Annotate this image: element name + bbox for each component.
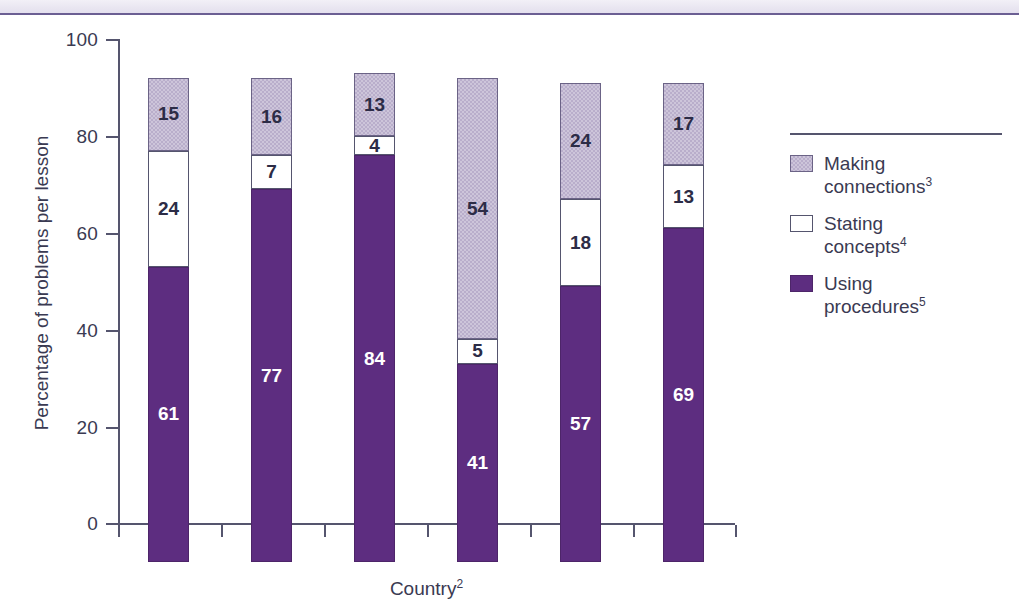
x-axis-title: Country2 [118,578,735,600]
x-tick-3 [427,525,429,537]
segment-value-label: 13 [364,94,385,116]
segment-value-label: 4 [369,135,380,157]
legend-sup-using: 5 [919,295,926,309]
making-connections-swatch-icon [790,155,813,172]
segment-using-procedures: 77 [251,189,292,562]
x-tick-4 [530,525,532,537]
segment-value-label: 54 [467,198,488,220]
y-axis-title: Percentage of problems per lesson [31,73,53,493]
x-tick-5 [633,525,635,537]
segment-value-label: 17 [673,113,694,135]
y-tick-20 [106,427,118,429]
y-axis-line [118,39,120,525]
x-tick-2 [324,525,326,537]
segment-stating-concepts: 24 [148,151,189,267]
legend-line1-stating: Stating [824,213,883,234]
segment-using-procedures: 57 [560,286,601,562]
segment-value-label: 15 [158,103,179,125]
x-axis-title-sup: 2 [456,577,463,591]
legend-line2-stating: concepts [824,236,900,257]
x-tick-1 [221,525,223,537]
bar-us[interactable]: 691317 [663,39,704,523]
legend-item-stating-concepts[interactable]: Statingconcepts4 [790,212,907,258]
using-procedures-swatch-icon [790,275,813,292]
legend-label-stating-concepts: Statingconcepts4 [824,212,907,258]
y-tick-60 [106,233,118,235]
x-axis-title-text: Country [390,578,457,599]
legend-line1-making: Making [824,153,885,174]
segment-using-procedures: 69 [663,228,704,562]
stacked-bar-chart: 100 80 60 40 20 0 Percentage of problems… [0,0,1019,615]
y-tick-80 [106,136,118,138]
legend-line2-using: procedures [824,296,919,317]
segment-using-procedures: 61 [148,267,189,562]
y-tick-label-0: 0 [38,513,98,535]
stating-concepts-swatch-icon [790,215,813,232]
segment-making-connections: 16 [251,78,292,155]
segment-value-label: 84 [364,348,385,370]
segment-value-label: 18 [570,232,591,254]
segment-value-label: 69 [673,384,694,406]
segment-value-label: 13 [673,186,694,208]
segment-making-connections: 17 [663,83,704,165]
y-tick-label-100: 100 [38,29,98,51]
segment-value-label: 16 [261,106,282,128]
y-tick-40 [106,330,118,332]
legend-label-making-connections: Makingconnections3 [824,152,932,198]
segment-stating-concepts: 5 [457,339,498,363]
y-tick-0 [106,523,118,525]
segment-value-label: 41 [467,452,488,474]
bar-hk[interactable]: 84413 [354,39,395,523]
bar-jp[interactable]: 41554 [457,39,498,523]
segment-making-connections: 54 [457,78,498,339]
y-tick-100 [106,39,118,41]
segment-value-label: 24 [158,198,179,220]
segment-stating-concepts: 18 [560,199,601,286]
segment-stating-concepts: 4 [354,136,395,155]
segment-value-label: 5 [472,340,483,362]
bar-au[interactable]: 612415 [148,39,189,523]
segment-value-label: 57 [570,413,591,435]
x-tick-0 [118,525,120,537]
legend-line2-making: connections [824,176,925,197]
legend-sup-stating: 4 [900,235,907,249]
bar-cz[interactable]: 77716 [251,39,292,523]
segment-making-connections: 13 [354,73,395,136]
segment-making-connections: 24 [560,83,601,199]
segment-value-label: 77 [261,365,282,387]
legend-sup-making: 3 [925,175,932,189]
segment-using-procedures: 41 [457,364,498,562]
legend-label-using-procedures: Usingprocedures5 [824,272,926,318]
segment-value-label: 61 [158,403,179,425]
legend-item-making-connections[interactable]: Makingconnections3 [790,152,932,198]
segment-stating-concepts: 13 [663,165,704,228]
legend-item-using-procedures[interactable]: Usingprocedures5 [790,272,926,318]
segment-stating-concepts: 7 [251,155,292,189]
legend-line1-using: Using [824,273,873,294]
segment-value-label: 24 [570,130,591,152]
segment-value-label: 7 [266,161,277,183]
segment-using-procedures: 84 [354,155,395,562]
x-tick-6 [735,525,737,537]
bar-nl[interactable]: 571824 [560,39,601,523]
legend-divider [790,133,1002,135]
segment-making-connections: 15 [148,78,189,151]
